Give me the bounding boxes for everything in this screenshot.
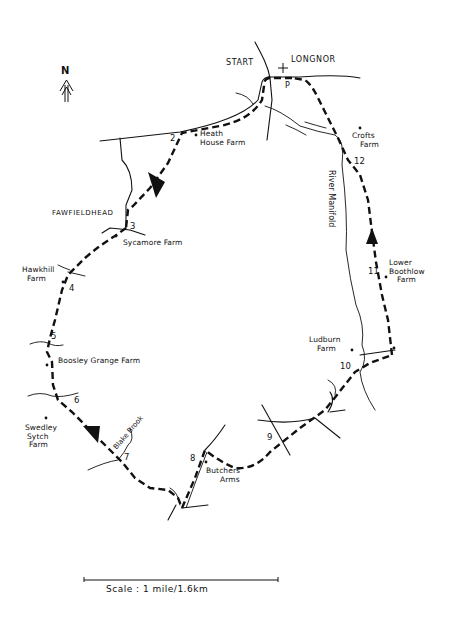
waypoint-6: 6 [74,395,79,405]
road-8-north [205,425,225,450]
landmark-sycamore-farm: Sycamore Farm [123,239,183,248]
village-label-longnor: LONGNOR [291,56,336,65]
start-cross-icon [278,63,288,73]
direction-arrow-2 [83,426,100,443]
waypoint-2: 2 [170,133,175,143]
landmark-swedley-sytch-farm: Swedley Sytch Farm [25,424,57,450]
direction-arrow-3 [366,228,378,244]
dot-ludburn [351,349,354,352]
stream-6 [28,393,78,397]
landmark-crofts-farm: Crofts Farm [352,132,379,149]
dot-10-end [393,347,396,350]
scale-label: Scale : 1 mile/1.6km [106,584,208,594]
landmark-boosley-grange-farm: Boosley Grange Farm [58,357,140,366]
start-label: START [226,59,254,68]
stream-north-west [236,93,253,104]
waypoint-10: 10 [340,361,351,371]
landmark-line: Sycamore Farm [123,239,183,248]
waypoint-12: 12 [354,156,365,166]
landmark-line: Farm [389,276,425,285]
hamlet-label-fawfieldhead: FAWFIELDHEAD [52,209,114,218]
landmark-line: Farm [309,345,340,354]
road-longnor-east [268,76,360,78]
waypoint-4: 4 [69,283,74,293]
landmark-line: Farm [25,441,57,450]
waypoint-8: 8 [190,453,195,463]
stream-east-2 [305,122,326,128]
dot-boothlow [385,276,388,279]
road-boothlow [360,350,395,355]
landmark-butchers-arms: Butchers Arms [206,467,240,484]
parking-label: P [285,82,290,91]
waypoint-5: 5 [51,331,56,341]
scale-bar [84,577,278,582]
dot-hawkhill [62,281,65,284]
north-label: N [61,65,69,76]
dot-heath-house [195,134,198,137]
landmark-line: Boosley Grange Farm [58,357,140,366]
landmark-line: House Farm [200,139,245,148]
waypoint-11: 11 [368,266,379,276]
waypoint-3: 3 [130,221,135,231]
river-manifold [265,106,375,410]
stream-10 [328,380,336,395]
dot-swedley [45,417,48,420]
landmark-hawkhill-farm: Hawkhill Farm [22,266,55,283]
dot-butchers [205,461,208,464]
landmark-line: Farm [22,275,55,284]
landmark-lower-boothlow-farm: Lower Boothlow Farm [389,259,425,285]
river-manifold-label: River Manifold [327,170,336,227]
road-sytch-south [168,505,176,520]
road-fawfield-lane [120,138,132,228]
landmark-ludburn-farm: Ludburn Farm [309,336,340,353]
dot-sycamore [115,235,118,238]
dot-boosley [46,364,49,367]
dot-crofts [359,127,362,130]
route-map [0,0,456,621]
north-arrow-icon [60,80,73,102]
stream-east [286,125,306,135]
waypoint-9: 9 [267,432,272,442]
landmark-heath-house-farm: Heath House Farm [200,130,245,147]
landmark-line: Farm [352,141,379,150]
waypoint-7: 7 [124,452,129,462]
landmark-line: Arms [206,476,240,485]
direction-arrow-1 [148,172,165,198]
stream-5 [30,342,63,346]
